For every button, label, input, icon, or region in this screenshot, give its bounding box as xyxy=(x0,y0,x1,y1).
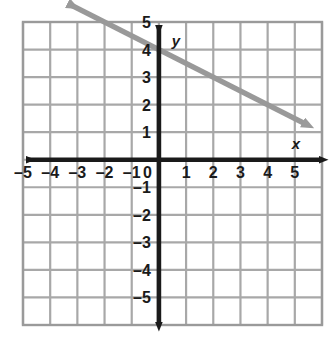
y-tick-label: 3 xyxy=(142,69,151,86)
coordinate-graph: –5–4–3–2–11234554321–1–2–3–4–50 x y xyxy=(0,0,333,339)
y-axis-label: y xyxy=(171,32,181,49)
x-tick-label: –1 xyxy=(123,164,141,181)
x-tick-label: –3 xyxy=(68,164,86,181)
x-tick-label: 2 xyxy=(209,164,218,181)
y-tick-label: –2 xyxy=(133,207,151,224)
x-tick-label: 5 xyxy=(290,164,299,181)
y-tick-label: –5 xyxy=(133,289,151,306)
x-tick-label: –2 xyxy=(96,164,114,181)
y-tick-label: –4 xyxy=(133,262,151,279)
y-tick-label: 2 xyxy=(142,97,151,114)
graph-canvas: –5–4–3–2–11234554321–1–2–3–4–50 x y xyxy=(0,0,333,339)
y-tick-label: –1 xyxy=(133,179,151,196)
x-tick-label: –5 xyxy=(14,164,32,181)
y-tick-label: –3 xyxy=(133,234,151,251)
y-tick-label: 4 xyxy=(142,42,151,59)
x-tick-label: –4 xyxy=(41,164,59,181)
y-tick-label: 1 xyxy=(142,124,151,141)
x-tick-label: 3 xyxy=(236,164,245,181)
origin-label: 0 xyxy=(143,164,152,181)
x-tick-label: 1 xyxy=(182,164,191,181)
x-tick-label: 4 xyxy=(263,164,272,181)
y-tick-label: 5 xyxy=(142,14,151,31)
x-axis-label: x xyxy=(291,135,301,152)
